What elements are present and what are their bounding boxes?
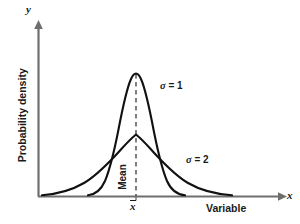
sigma-2-annotation: σ = 2 [186, 155, 209, 166]
x-axis-letter: x [287, 190, 293, 201]
x-axis-mean-tick-label: x [130, 201, 136, 212]
sigma-1-annotation: σ = 1 [160, 81, 183, 92]
y-axis-title: Probability density [17, 53, 28, 178]
sigma-2-value: = 2 [192, 154, 209, 165]
sigma-1-value: = 1 [166, 80, 183, 91]
probability-density-figure: y x Probability density Mean x Variable … [0, 0, 300, 224]
x-axis-arrowhead [278, 192, 287, 201]
y-axis [34, 20, 43, 197]
y-axis-letter: y [26, 4, 31, 15]
x-axis-title: Variable [206, 203, 246, 214]
plot-area [0, 0, 300, 224]
mean-line-label: Mean [118, 154, 128, 200]
x-bar-glyph: x [130, 201, 136, 212]
x-axis [38, 192, 287, 201]
y-axis-arrowhead [34, 20, 43, 29]
